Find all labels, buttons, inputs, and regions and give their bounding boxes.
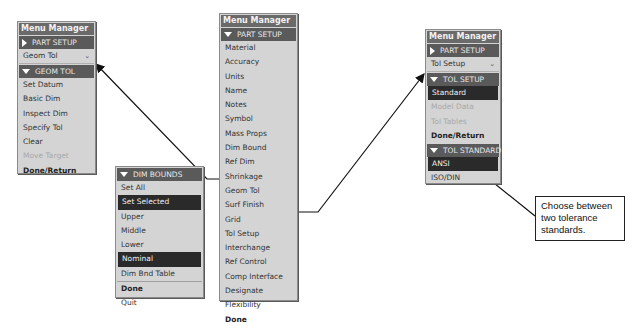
menu-item-dim-bound[interactable]: Dim Bound: [221, 141, 296, 155]
menu-item-done-return[interactable]: Done/Return: [19, 164, 94, 178]
menu-item-done[interactable]: Done: [221, 313, 296, 326]
menu-item-basic-dim[interactable]: Basic Dim: [19, 92, 94, 106]
menu-item-clear[interactable]: Clear: [19, 135, 94, 149]
menu-item-ansi[interactable]: ANSI: [428, 157, 498, 171]
part-setup-header[interactable]: PART SETUP: [19, 36, 94, 49]
menu-item-tol-setup[interactable]: Tol Setup: [221, 227, 296, 241]
menu-manager-title: Menu Manager: [427, 31, 499, 43]
arrow-geom-tol: [96, 64, 219, 179]
menu-item-done[interactable]: Done: [117, 281, 202, 296]
collapsed-triangle-icon: [430, 47, 435, 55]
menu-item-material[interactable]: Material: [221, 41, 296, 55]
menu-item-dim-bnd-table[interactable]: Dim Bnd Table: [117, 267, 202, 281]
tol-setup-header[interactable]: TOL SETUP: [427, 73, 499, 86]
menu-item-upper[interactable]: Upper: [117, 210, 202, 224]
menu-manager-geom-tol: Menu Manager PART SETUP Geom Tol ⌄ GEOM …: [17, 21, 96, 174]
menu-item-comp-interface[interactable]: Comp Interface: [221, 270, 296, 284]
expanded-triangle-icon: [224, 32, 232, 37]
menu-item-lower[interactable]: Lower: [117, 238, 202, 252]
menu-item-name[interactable]: Name: [221, 84, 296, 98]
menu-dim-bounds: DIM BOUNDS Set All Set Selected Upper Mi…: [115, 166, 204, 298]
menu-item-symbol[interactable]: Symbol: [221, 112, 296, 126]
menu-manager-title: Menu Manager: [19, 23, 94, 35]
menu-item-move-target: Move Target: [19, 149, 94, 163]
part-setup-header[interactable]: PART SETUP: [427, 44, 499, 57]
menu-manager-tol-setup: Menu Manager PART SETUP Tol Setup ⌄ TOL …: [425, 29, 501, 184]
menu-item-interchange[interactable]: Interchange: [221, 241, 296, 255]
menu-item-middle[interactable]: Middle: [117, 224, 202, 238]
menu-item-specify-tol[interactable]: Specify Tol: [19, 121, 94, 135]
menu-dropdown[interactable]: Tol Setup ⌄: [427, 57, 499, 72]
part-setup-header[interactable]: PART SETUP: [221, 28, 296, 41]
expanded-triangle-icon: [430, 148, 438, 153]
menu-item-grid[interactable]: Grid: [221, 213, 296, 227]
expanded-triangle-icon: [22, 69, 30, 74]
expanded-triangle-icon: [120, 172, 128, 177]
menu-item-tol-tables: Tol Tables: [427, 115, 499, 129]
geom-tol-header[interactable]: GEOM TOL: [19, 65, 94, 78]
menu-item-units[interactable]: Units: [221, 70, 296, 84]
menu-item-done-return[interactable]: Done/Return: [427, 129, 499, 143]
menu-item-standard[interactable]: Standard: [428, 86, 498, 100]
menu-item-ref-dim[interactable]: Ref Dim: [221, 155, 296, 169]
collapsed-triangle-icon: [22, 39, 27, 47]
menu-item-flexibility[interactable]: Flexibility: [221, 298, 296, 312]
menu-item-nominal[interactable]: Nominal: [118, 252, 201, 266]
menu-item-mass-props[interactable]: Mass Props: [221, 127, 296, 141]
menu-item-set-datum[interactable]: Set Datum: [19, 78, 94, 92]
menu-item-set-all[interactable]: Set All: [117, 181, 202, 195]
menu-item-surf-finish[interactable]: Surf Finish: [221, 198, 296, 212]
menu-dropdown[interactable]: Geom Tol ⌄: [19, 49, 94, 64]
dim-bounds-header[interactable]: DIM BOUNDS: [117, 168, 202, 181]
callout-box: Choose between two tolerance standards.: [535, 196, 625, 241]
menu-item-shrinkage[interactable]: Shrinkage: [221, 170, 296, 184]
menu-item-model-data: Model Data: [427, 100, 499, 114]
menu-item-accuracy[interactable]: Accuracy: [221, 55, 296, 69]
menu-item-set-selected[interactable]: Set Selected: [118, 195, 201, 209]
chevron-down-icon: ⌄: [489, 57, 495, 71]
menu-item-designate[interactable]: Designate: [221, 284, 296, 298]
menu-item-ref-control[interactable]: Ref Control: [221, 255, 296, 269]
menu-manager-title: Menu Manager: [221, 15, 296, 27]
tol-standard-header[interactable]: TOL STANDARD: [427, 144, 499, 157]
menu-item-notes[interactable]: Notes: [221, 98, 296, 112]
menu-item-quit[interactable]: Quit: [117, 296, 202, 310]
expanded-triangle-icon: [430, 77, 438, 82]
menu-manager-part-setup: Menu Manager PART SETUP Material Accurac…: [219, 13, 298, 301]
menu-item-geom-tol[interactable]: Geom Tol: [221, 184, 296, 198]
chevron-down-icon: ⌄: [84, 49, 90, 63]
menu-item-iso-din[interactable]: ISO/DIN: [427, 171, 499, 185]
menu-item-inspect-dim[interactable]: Inspect Dim: [19, 107, 94, 121]
